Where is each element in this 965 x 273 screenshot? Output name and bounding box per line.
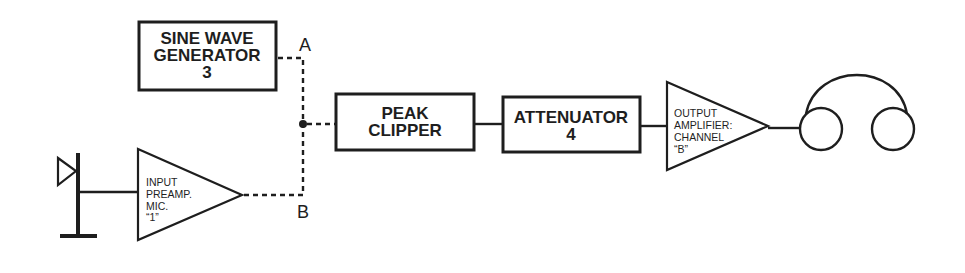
sine-generator-label-3: 3 <box>202 63 211 82</box>
point-a-label: A <box>299 35 311 55</box>
input-preamp-label-1: INPUT <box>146 176 178 188</box>
junction-dot <box>299 120 307 128</box>
output-amp-label-3: CHANNEL <box>674 131 724 143</box>
point-b-label: B <box>297 202 309 222</box>
headphones-icon <box>800 75 914 150</box>
microphone-icon <box>58 153 97 236</box>
sine-wave-generator-block: SINE WAVE GENERATOR 3 <box>139 22 276 90</box>
output-amplifier-triangle: OUTPUT AMPLIFIER: CHANNEL “B” <box>667 82 768 170</box>
output-amp-label-1: OUTPUT <box>674 107 718 119</box>
attenuator-block: ATTENUATOR 4 <box>503 97 640 152</box>
signal-block-diagram: SINE WAVE GENERATOR 3 A B PEAK CLIPPER A… <box>0 0 965 273</box>
peak-clipper-block: PEAK CLIPPER <box>336 94 474 150</box>
output-amp-label-4: “B” <box>674 143 689 155</box>
input-preamp-triangle: INPUT PREAMP. MIC. “1” <box>138 149 242 240</box>
output-amp-label-2: AMPLIFIER: <box>674 119 732 131</box>
peak-clipper-label-2: CLIPPER <box>368 121 442 140</box>
input-preamp-label-4: “1” <box>146 211 159 223</box>
attenuator-label-2: 4 <box>566 125 576 144</box>
input-preamp-label-2: PREAMP. <box>146 188 192 200</box>
